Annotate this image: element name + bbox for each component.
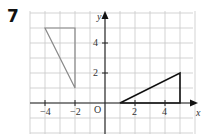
- y-axis-arrow-icon: [102, 11, 109, 19]
- x-axis-arrow-icon: [190, 100, 198, 107]
- grid-lines: [30, 11, 195, 134]
- y-tick-label: 2: [93, 67, 98, 78]
- shapes: [45, 28, 180, 103]
- y-axis-label: y: [96, 11, 102, 22]
- origin-label: O: [94, 104, 101, 115]
- axes: [30, 11, 198, 134]
- x-tick-label: −2: [70, 106, 81, 117]
- x-tick-label: 4: [162, 106, 167, 117]
- x-axis-label: x: [195, 107, 201, 118]
- y-tick-label: 4: [93, 37, 98, 48]
- x-tick-label: −4: [40, 106, 51, 117]
- coordinate-grid: y x O −4−22424: [0, 0, 210, 135]
- x-tick-label: 2: [132, 106, 137, 117]
